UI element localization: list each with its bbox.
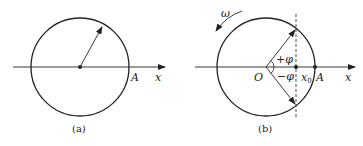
radius-vector-arrow xyxy=(80,27,102,67)
caption-a: (a) xyxy=(72,123,86,134)
origin-label: O xyxy=(254,71,263,84)
omega-label: ω xyxy=(221,7,230,20)
x0-label: x0 xyxy=(301,71,312,85)
plus-phi-label: +φ xyxy=(276,53,293,66)
minus-phi-label: −φ xyxy=(277,70,294,83)
point-a-label: A xyxy=(315,71,324,84)
plus-phi-angle-arc xyxy=(271,61,274,67)
center-dot xyxy=(78,65,82,69)
x0-dot xyxy=(294,65,298,69)
phasor-diagram: A x (a) ω O +φ −φ x0 A x (b) xyxy=(0,0,363,146)
figure-a: A x (a) xyxy=(13,18,165,134)
minus-phi-angle-arc xyxy=(271,67,274,73)
caption-b: (b) xyxy=(258,123,272,134)
point-a-dot xyxy=(313,65,317,69)
x-axis-label: x xyxy=(155,71,162,84)
x-axis-label: x xyxy=(345,71,352,84)
figure-b: ω O +φ −φ x0 A x (b) xyxy=(195,7,355,134)
point-a-label: A xyxy=(130,71,139,84)
